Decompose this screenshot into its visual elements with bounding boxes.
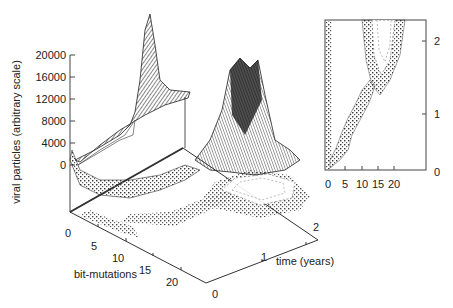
y-tick-label: 2: [313, 221, 319, 233]
figure: 20000 16000 12000 8000 4000 0 viral part…: [0, 0, 453, 308]
z-tick-label: 8000: [42, 115, 66, 127]
y-axis-label: time (years): [276, 255, 334, 267]
contour-plot: 0 5 10 15 20 0 1 2: [325, 20, 440, 190]
contour-y-tick-label: 2: [434, 35, 440, 47]
z-tick-label: 4000: [42, 137, 66, 149]
contour-y-tick-label: 1: [434, 108, 440, 120]
z-tick-label: 0: [60, 159, 66, 171]
z-tick-label: 12000: [35, 93, 66, 105]
contour-x-tick-label: 5: [342, 178, 348, 190]
x-tick-label: 15: [139, 264, 151, 276]
x-tick-label: 10: [112, 252, 124, 264]
z-tick-label: 16000: [35, 71, 66, 83]
surface-main-peak: [75, 14, 190, 162]
x-tick-label: 5: [91, 240, 97, 252]
y-tick-label: 1: [261, 251, 267, 263]
contour-x-tick-label: 20: [388, 178, 400, 190]
contour-x-tick-label: 10: [356, 178, 368, 190]
x-tick-label: 20: [166, 276, 178, 288]
z-ticks: [70, 55, 75, 165]
z-tick-label: 20000: [35, 49, 66, 61]
surface-plot: 20000 16000 12000 8000 4000 0 viral part…: [10, 14, 334, 300]
y-tick-label: 0: [212, 288, 218, 300]
contour-x-tick-label: 15: [372, 178, 384, 190]
x-axis-label: bit-mutations: [74, 268, 137, 280]
x-tick-label: 0: [65, 227, 71, 239]
z-axis-label: viral particles (arbitrary scale): [10, 60, 22, 204]
contour-x-tick-label: 0: [325, 178, 331, 190]
contour-y-tick-label: 0: [434, 166, 440, 178]
